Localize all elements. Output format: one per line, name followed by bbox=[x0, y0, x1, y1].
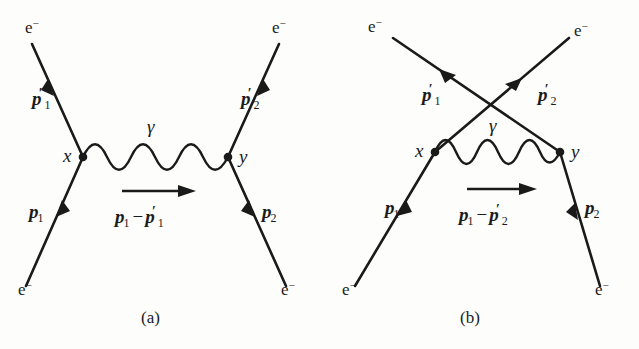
label-electron-upper-right-a: e− bbox=[272, 19, 286, 36]
label-electron-upper-right-b: e− bbox=[574, 22, 588, 39]
arrow-head-incoming-right bbox=[241, 200, 255, 217]
label-momentum-p1-prime-a: p′1 bbox=[32, 89, 51, 108]
label-momentum-p2-prime-a: p′2 bbox=[241, 89, 260, 108]
label-electron-lower-left-b: e− bbox=[342, 281, 356, 298]
label-vertex-x-a: x bbox=[63, 146, 71, 165]
label-electron-lower-right-a: e− bbox=[281, 281, 295, 298]
figure-canvas: e− e− e− e− p′1 p′2 p1 p2 x y γ p1−p′1 (… bbox=[0, 0, 639, 349]
label-momentum-p1-a: p1 bbox=[29, 202, 45, 221]
vertex-dot-x bbox=[79, 153, 88, 162]
label-electron-upper-left-a: e− bbox=[25, 19, 39, 36]
label-momentum-p2-b: p2 bbox=[585, 198, 601, 217]
label-vertex-y-a: y bbox=[239, 147, 247, 166]
vertex-dot-y bbox=[224, 153, 233, 162]
caption-b: (b) bbox=[460, 309, 480, 326]
fermion-line-incoming-right bbox=[228, 157, 286, 286]
label-photon-gamma-b: γ bbox=[489, 116, 497, 135]
label-momentum-p1-b: p1 bbox=[385, 198, 401, 217]
diagram-a-graphics bbox=[0, 0, 319, 349]
feynman-diagram-b: e− e− e− e− p′1 p′2 p1 p2 x y γ p1−p′2 (… bbox=[319, 0, 638, 349]
feynman-diagram-a: e− e− e− e− p′1 p′2 p1 p2 x y γ p1−p′1 (… bbox=[0, 0, 319, 349]
photon-propagator-b bbox=[435, 140, 560, 164]
vertex-dot-x-b bbox=[431, 148, 440, 157]
label-electron-upper-left-b: e− bbox=[368, 18, 382, 35]
diagram-b-graphics bbox=[319, 0, 638, 349]
label-vertex-y-b: y bbox=[571, 142, 579, 161]
label-electron-lower-right-b: e− bbox=[595, 281, 609, 298]
label-vertex-x-b: x bbox=[415, 141, 423, 160]
momentum-transfer-arrow-head-b bbox=[519, 183, 537, 195]
photon-propagator-a bbox=[83, 144, 228, 170]
momentum-transfer-arrow-head-a bbox=[178, 185, 196, 197]
label-momentum-p1-prime-b: p′1 bbox=[422, 85, 441, 104]
label-electron-lower-left-a: e− bbox=[18, 281, 32, 298]
caption-a: (a) bbox=[141, 309, 160, 326]
label-photon-gamma-a: γ bbox=[147, 117, 155, 136]
label-momentum-transfer-a: p1−p′1 bbox=[115, 207, 165, 226]
arrow-head-outgoing-upper-left-b bbox=[439, 69, 456, 83]
label-momentum-p2-prime-b: p′2 bbox=[538, 85, 557, 104]
label-momentum-p2-a: p2 bbox=[262, 202, 278, 221]
arrow-head-incoming-left bbox=[56, 200, 70, 217]
label-momentum-transfer-b: p1−p′2 bbox=[459, 205, 509, 224]
vertex-dot-y-b bbox=[556, 148, 565, 157]
fermion-line-outgoing-upper-left-b bbox=[393, 38, 560, 152]
